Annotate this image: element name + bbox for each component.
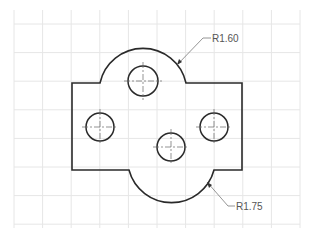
- drawing-canvas: R1.60 R1.75: [0, 0, 311, 241]
- arrowhead-icon: [177, 59, 182, 65]
- background-grid: [14, 10, 300, 228]
- dimension-label-r175: R1.75: [236, 201, 263, 212]
- leader-line-r160: [177, 38, 211, 65]
- dimension-r160: R1.60: [177, 33, 239, 65]
- dimension-label-r160: R1.60: [212, 33, 239, 44]
- dimension-r175: R1.75: [207, 182, 263, 212]
